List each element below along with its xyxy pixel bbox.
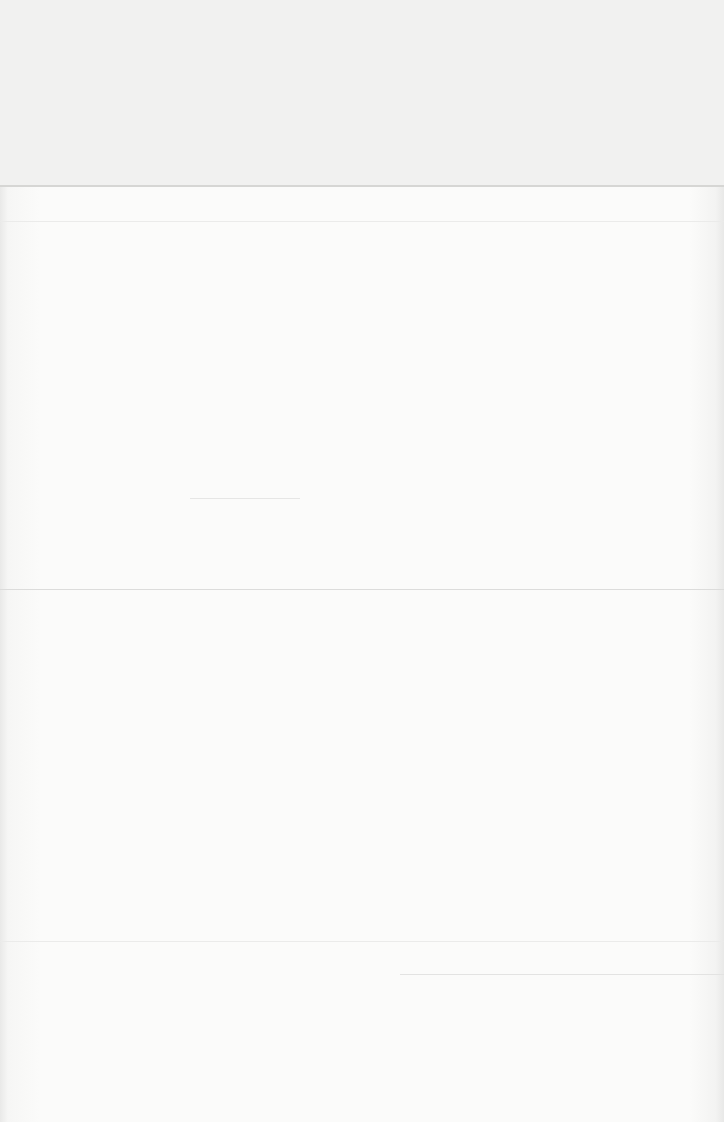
horizontal-rule: [0, 221, 724, 222]
horizontal-rule: [0, 589, 724, 590]
top-shaded-band: [0, 0, 724, 186]
blank-page: [0, 0, 724, 1122]
horizontal-rule: [400, 974, 724, 975]
horizontal-rule: [0, 941, 724, 942]
horizontal-rule: [0, 185, 724, 187]
horizontal-rule: [190, 498, 300, 499]
